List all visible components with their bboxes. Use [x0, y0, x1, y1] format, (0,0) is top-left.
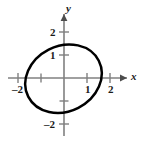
coordinate-plane-svg [0, 0, 145, 142]
y-axis-arrowhead [61, 14, 68, 21]
x-tick-label-minus-2: –2 [12, 84, 23, 95]
y-tick-label-minus-2: –2 [44, 119, 55, 130]
graph-figure: –2 1 2 2 1 –2 x y [0, 0, 145, 142]
x-tick-label-2: 2 [108, 84, 114, 95]
y-axis-name-label: y [66, 3, 71, 14]
x-axis-name-label: x [131, 71, 137, 82]
y-tick-label-2: 2 [50, 27, 56, 38]
y-tick-label-1: 1 [50, 50, 56, 61]
x-tick-label-1: 1 [85, 84, 91, 95]
x-axis-arrowhead [120, 75, 127, 82]
